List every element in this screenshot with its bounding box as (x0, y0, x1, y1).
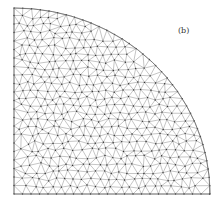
mesh-edges (14, 8, 210, 194)
subfigure-label: (b) (178, 26, 189, 35)
mesh-nodes (13, 7, 210, 194)
